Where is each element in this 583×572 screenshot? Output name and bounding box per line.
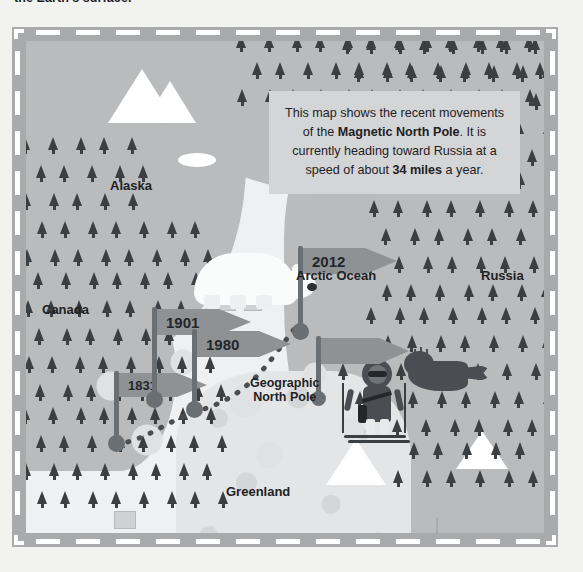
label-russia: Russia <box>481 269 524 284</box>
label-greenland: Greenland <box>226 485 290 500</box>
pole-position-dot[interactable] <box>292 323 309 340</box>
frame-dash <box>550 91 555 115</box>
frame-dash <box>550 171 555 195</box>
frame-dash <box>550 251 555 275</box>
frame-dash <box>550 51 555 75</box>
frame-dash <box>550 371 555 395</box>
frame-dash <box>550 131 555 155</box>
frame-dash <box>516 30 540 35</box>
frame-dash <box>550 211 555 235</box>
frame-dash <box>14 535 18 545</box>
frame-dash <box>276 539 300 544</box>
frame-dash <box>316 539 340 544</box>
mountain-icon <box>456 431 508 469</box>
frame-dash <box>15 331 20 355</box>
frame-dash <box>116 30 140 35</box>
map-canvas: 1831190119802012 AlaskaCanadaRussiaGreen… <box>26 41 544 533</box>
pole-label-line1: Geographic <box>250 376 319 390</box>
frame-dash <box>550 451 555 475</box>
mountain-icon <box>326 439 386 485</box>
frame-dash <box>36 539 60 544</box>
frame-dash <box>546 541 556 545</box>
frame-dash <box>196 30 220 35</box>
info-magnetic-north-pole-bold: Magnetic North Pole <box>338 125 460 139</box>
frame-dash <box>550 491 555 515</box>
frame-dash <box>15 51 20 75</box>
frame-dash <box>14 29 24 33</box>
frame-dash <box>15 171 20 195</box>
frame-dash <box>546 29 556 33</box>
mountain-icon <box>144 81 196 123</box>
frame-dash <box>15 251 20 275</box>
flag-tip <box>259 331 291 357</box>
frame-dash <box>196 539 220 544</box>
frame-dash <box>15 91 20 115</box>
frame-dash <box>156 539 180 544</box>
label-arctic-ocean: Arctic Ocean <box>296 269 376 284</box>
info-34-miles-bold: 34 miles <box>392 163 442 177</box>
frame-dash <box>396 539 420 544</box>
pole-position-dot[interactable] <box>146 391 163 408</box>
frame-dash <box>76 30 100 35</box>
pole-position-dot[interactable] <box>186 401 203 418</box>
frame-dash <box>476 539 500 544</box>
info-line4-post: a year. <box>442 163 483 177</box>
label-alaska: Alaska <box>110 179 152 194</box>
frame-dash <box>316 30 340 35</box>
map-frame: 1831190119802012 AlaskaCanadaRussiaGreen… <box>12 27 558 547</box>
pole-label-line2: North Pole <box>253 390 316 404</box>
whale-icon <box>396 529 468 533</box>
frame-dash <box>356 539 380 544</box>
frame-dash <box>276 30 300 35</box>
frame-dash <box>236 539 260 544</box>
frame-dash <box>76 539 100 544</box>
frame-dash <box>15 411 20 435</box>
info-line3: currently heading toward Russia at a <box>292 144 496 158</box>
flag-year-label: 1980 <box>197 331 259 357</box>
frame-dash <box>550 411 555 435</box>
skier-icon <box>338 359 412 445</box>
walrus-icon <box>404 347 488 393</box>
frame-dash <box>552 535 556 545</box>
frame-dash <box>550 291 555 315</box>
flag-tip <box>379 338 409 364</box>
pole-position-dot[interactable] <box>108 435 125 452</box>
info-line2-pre: of the <box>303 125 338 139</box>
hut-icon <box>114 511 136 529</box>
info-line1: This map shows the recent movements <box>285 106 504 120</box>
frame-dash <box>15 211 20 235</box>
info-line4-pre: speed of about <box>306 163 393 177</box>
frame-dash <box>156 30 180 35</box>
frame-dash <box>550 331 555 355</box>
frame-dash <box>14 29 18 39</box>
flag-banner <box>321 338 379 364</box>
frame-dash <box>516 539 540 544</box>
frame-dash <box>476 30 500 35</box>
frame-dash <box>15 131 20 155</box>
cloud-icon <box>178 153 216 167</box>
frame-dash <box>436 30 460 35</box>
info-callout-box: This map shows the recent movements of t… <box>269 91 520 194</box>
frame-dash <box>116 539 140 544</box>
frame-dash <box>15 491 20 515</box>
label-canada: Canada <box>42 303 89 318</box>
frame-dash <box>552 29 556 39</box>
frame-dash <box>15 451 20 475</box>
frame-dash <box>396 30 420 35</box>
frame-dash <box>15 291 20 315</box>
label-geographic-north-pole: Geographic North Pole <box>250 376 319 405</box>
frame-dash <box>14 541 24 545</box>
frame-dash <box>15 371 20 395</box>
page-caption: the Earth's surface. <box>14 0 132 5</box>
frame-dash <box>356 30 380 35</box>
frame-dash <box>36 30 60 35</box>
frame-dash <box>236 30 260 35</box>
frame-dash <box>436 539 460 544</box>
info-line2-post: . It is <box>460 125 487 139</box>
